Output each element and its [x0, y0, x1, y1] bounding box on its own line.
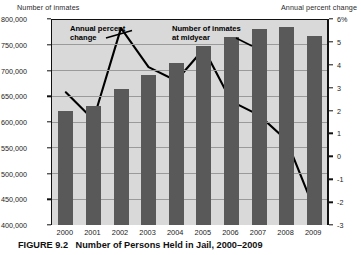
right-axis-tick-mark	[329, 87, 333, 88]
left-axis-tick-mark	[47, 224, 51, 225]
plot-inner	[52, 19, 328, 225]
x-axis-tick-label: 2003	[139, 228, 155, 237]
right-axis-tick-label: 0	[337, 152, 341, 161]
x-axis-tick-label: 2004	[167, 228, 183, 237]
x-axis-tick-label: 2000	[57, 228, 73, 237]
annual-percent-change-line	[66, 28, 314, 209]
x-axis-tick-label: 2009	[305, 228, 321, 237]
bar	[307, 36, 322, 225]
bar	[279, 27, 294, 225]
left-axis-tick-label: 400,000	[1, 221, 27, 230]
left-axis-tick-label: 800,000	[1, 15, 27, 24]
right-axis-spine	[327, 19, 329, 225]
left-axis-tick-mark	[47, 173, 51, 174]
annotation-line-2: change	[70, 33, 125, 42]
right-axis-tick-mark	[329, 156, 333, 157]
x-axis-tick-label: 2005	[195, 228, 211, 237]
x-axis-tick-label: 2008	[277, 228, 293, 237]
left-axis-tick-label: 450,000	[1, 195, 27, 204]
left-axis-tick-label: 750,000	[1, 40, 27, 49]
right-axis-tick-mark	[329, 133, 333, 134]
bar	[196, 46, 211, 225]
bar	[114, 89, 129, 225]
left-axis-tick-mark	[47, 96, 51, 97]
right-axis-tick-mark	[329, 41, 333, 42]
figure-number: FIGURE 9.2	[18, 240, 68, 250]
right-axis-title: Annual percent change	[281, 3, 357, 12]
right-axis-tick-label: -2	[337, 198, 343, 207]
right-axis-tick-label: 4	[337, 60, 341, 69]
figure-caption: FIGURE 9.2 Number of Persons Held in Jai…	[18, 240, 361, 250]
plot-area	[51, 19, 329, 225]
bar	[141, 75, 156, 225]
left-axis-title: Number of inmates	[17, 3, 79, 12]
right-axis-tick-label: -1	[337, 175, 343, 184]
left-axis-tick-mark	[47, 199, 51, 200]
x-axis-tick-label: 2007	[250, 228, 266, 237]
annotation-line-2: at midyear	[172, 33, 241, 42]
left-axis-tick-label: 550,000	[1, 143, 27, 152]
right-axis-tick-mark	[329, 201, 333, 202]
left-axis-tick-mark	[47, 70, 51, 71]
bar	[58, 111, 73, 225]
right-axis-tick-label: 5	[337, 37, 341, 46]
left-axis-tick-mark	[47, 44, 51, 45]
right-axis-tick-label: 3	[337, 83, 341, 92]
x-axis-tick-label: 2001	[84, 228, 100, 237]
left-axis-tick-label: 650,000	[1, 92, 27, 101]
right-axis-tick-mark	[329, 64, 333, 65]
annotation-annual-percent-change: Annual percent change	[70, 24, 125, 43]
right-axis-tick-label: -3	[337, 221, 343, 230]
left-axis-tick-label: 500,000	[1, 169, 27, 178]
bar	[86, 106, 101, 225]
right-axis-tick-label: 6%	[337, 15, 347, 24]
left-axis-tick-mark	[47, 18, 51, 19]
figure-title: Number of Persons Held in Jail, 2000–200…	[76, 240, 263, 250]
left-axis-tick-label: 700,000	[1, 66, 27, 75]
annotation-line-1: Number of inmates	[172, 24, 241, 33]
annotation-number-of-inmates: Number of inmates at midyear	[172, 24, 241, 43]
bar	[224, 37, 239, 225]
right-axis-tick-mark	[329, 224, 333, 225]
x-axis-tick-label: 2002	[112, 228, 128, 237]
left-axis-tick-mark	[47, 147, 51, 148]
right-axis-tick-label: 2	[337, 106, 341, 115]
left-axis-tick-label: 600,000	[1, 118, 27, 127]
annotation-line-1: Annual percent	[70, 24, 125, 33]
gridline	[52, 19, 328, 20]
right-axis-tick-mark	[329, 179, 333, 180]
right-axis-tick-mark	[329, 18, 333, 19]
figure-container: Number of inmates Annual percent change …	[0, 0, 361, 255]
right-axis-tick-label: 1	[337, 129, 341, 138]
bar	[252, 29, 267, 225]
right-axis-tick-mark	[329, 110, 333, 111]
x-axis-tick-label: 2006	[222, 228, 238, 237]
left-axis-tick-mark	[47, 121, 51, 122]
bar	[169, 63, 184, 225]
